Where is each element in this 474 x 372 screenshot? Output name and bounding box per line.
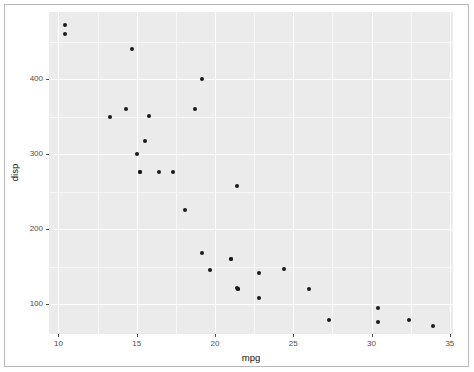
y-tick-mark [46, 154, 49, 155]
scatter-plot-screenshot: 101520253035 100200300400 mpg disp [0, 0, 474, 372]
x-tick-mark [137, 334, 138, 337]
data-point [282, 267, 286, 271]
data-point [229, 257, 233, 261]
major-gridline-x [58, 12, 59, 334]
major-gridline-y [49, 229, 453, 230]
data-point [235, 184, 239, 188]
y-tick-mark [46, 229, 49, 230]
data-point [171, 170, 175, 174]
y-tick-label: 200 [30, 224, 43, 234]
y-tick-label: 400 [30, 74, 43, 84]
x-tick-label: 25 [289, 339, 298, 349]
major-gridline-x [215, 12, 216, 334]
data-point [63, 32, 67, 36]
data-point [327, 318, 331, 322]
y-tick-label: 100 [30, 299, 43, 309]
data-point [193, 107, 197, 111]
minor-gridline-x [411, 12, 412, 334]
y-tick-mark [46, 304, 49, 305]
major-gridline-x [450, 12, 451, 334]
x-tick-mark [58, 334, 59, 337]
data-point [108, 115, 112, 119]
x-tick-label: 30 [367, 339, 376, 349]
x-tick-label: 35 [445, 339, 454, 349]
data-point [130, 47, 134, 51]
data-point [124, 107, 128, 111]
major-gridline-y [49, 79, 453, 80]
minor-gridline-x [176, 12, 177, 334]
plot-panel [49, 12, 453, 334]
data-point [135, 152, 139, 156]
data-point [236, 287, 240, 291]
data-point [208, 268, 212, 272]
x-tick-mark [215, 334, 216, 337]
minor-gridline-y [49, 192, 453, 193]
data-point [376, 320, 380, 324]
y-axis-title: disp [9, 164, 20, 181]
minor-gridline-y [49, 267, 453, 268]
minor-gridline-x [254, 12, 255, 334]
data-point [376, 306, 380, 310]
data-point [200, 77, 204, 81]
x-tick-label: 10 [54, 339, 63, 349]
major-gridline-y [49, 304, 453, 305]
x-tick-label: 15 [132, 339, 141, 349]
minor-gridline-x [332, 12, 333, 334]
data-point [257, 271, 261, 275]
x-tick-mark [372, 334, 373, 337]
data-point [63, 23, 67, 27]
x-axis-title: mpg [49, 352, 453, 363]
x-tick-mark [293, 334, 294, 337]
data-point [183, 208, 187, 212]
major-gridline-y [49, 154, 453, 155]
minor-gridline-x [98, 12, 99, 334]
plot-root: 101520253035 100200300400 mpg disp [0, 0, 474, 372]
y-tick-label: 300 [30, 149, 43, 159]
major-gridline-x [372, 12, 373, 334]
x-tick-mark [450, 334, 451, 337]
x-tick-label: 20 [211, 339, 220, 349]
y-tick-mark [46, 79, 49, 80]
data-point [257, 296, 261, 300]
data-point [138, 170, 142, 174]
data-point [143, 139, 147, 143]
data-point [307, 287, 311, 291]
major-gridline-x [293, 12, 294, 334]
minor-gridline-y [49, 42, 453, 43]
data-point [431, 324, 435, 328]
data-point [200, 251, 204, 255]
data-point [157, 170, 161, 174]
